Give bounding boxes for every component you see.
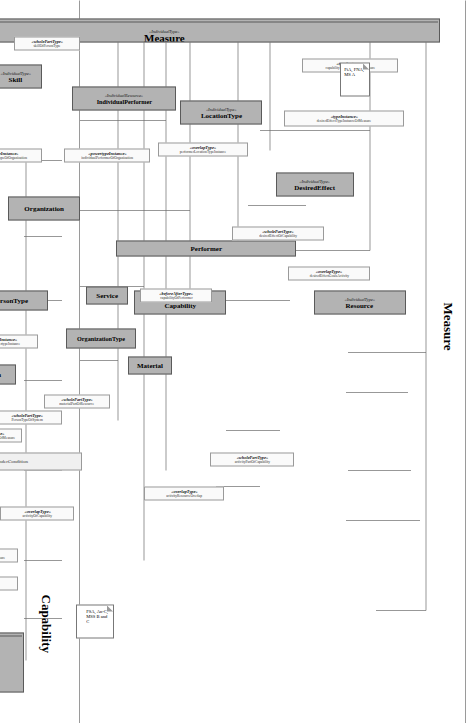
connector-name: capabilityOfPerformer [160, 295, 193, 299]
class-person-type-name: PersonType [0, 296, 28, 304]
connector-condition-type-instance[interactable]: «typeInstance» conditionTypeInstanceOfMe… [0, 428, 22, 442]
connector-name: individualPerformerOfOrganization [81, 155, 133, 159]
connector-name: desiredEffectGoalsActivity [309, 273, 348, 277]
note-fsa-anc-mss-b-c: FSA, An-C, MSS B and C [76, 604, 114, 638]
connector-resource-type-instance[interactable]: «typeInstance» resourceTypeInstanceOfMea… [0, 548, 18, 562]
connector-individual-performer-of-organization[interactable]: «powertypeInstance» individualPerformerO… [64, 148, 150, 162]
class-person-type[interactable]: PersonType [0, 290, 48, 310]
connector-name: skillOfPersonType [34, 43, 61, 47]
connector-name: conditionTypeInstanceOfMeasure [0, 435, 15, 439]
class-resource[interactable]: «IndividualType» Resource [314, 290, 406, 314]
connector-activity-part-of-capability[interactable]: «wholePartType» activityPartOfCapability [210, 452, 294, 466]
connector-name: resourceTypeInstanceOfMeasure [0, 555, 5, 559]
connector-name: PersonTypeOfSystem [11, 417, 42, 421]
class-location-type-stereotype: «IndividualType» [206, 106, 236, 111]
class-individual-performer-stereotype: «IndividualResource» [105, 92, 143, 97]
class-activity-header: «IndividualType» Activity [0, 635, 22, 661]
class-material[interactable]: Material [128, 356, 172, 374]
connector-name: activityPerformableUnderCondition [0, 459, 28, 463]
class-desired-effect[interactable]: «IndividualType» DesiredEffect [276, 172, 354, 196]
class-material-name: Material [137, 361, 163, 369]
class-skill-stereotype: «IndividualType» [1, 70, 31, 75]
class-measure-name: Measure [144, 33, 185, 41]
class-system-name: System [0, 370, 1, 378]
class-performer[interactable]: Performer [116, 240, 296, 256]
class-organization-name: Organization [24, 204, 64, 212]
connector-name: desiredEffectOfCapability [259, 233, 297, 237]
class-skill[interactable]: «IndividualType» Skill [0, 64, 42, 88]
note-fia-fna-ms-a: FiA, FNA, MS A [340, 62, 370, 96]
class-location-type-name: LocationType [200, 111, 241, 119]
connector-desired-effect-of-capability[interactable]: «wholePartType» desiredEffectOfCapabilit… [232, 226, 324, 240]
class-desired-effect-name: DesiredEffect [295, 183, 336, 191]
connector-activity-resource-overlap[interactable]: «overlapType» activityResourceOverlap [144, 486, 224, 500]
class-performer-name: Performer [190, 244, 221, 252]
connector-organization-powertype[interactable]: «powertypeInstance» organizationPowertyp… [0, 148, 42, 162]
connector-name: personTypePowertypeInstance [0, 341, 20, 345]
class-activity[interactable]: «IndividualType» Activity [0, 632, 24, 692]
class-desired-effect-stereotype: «IndividualType» [300, 178, 330, 183]
connector-name: performerLocationTypeInstance [180, 149, 226, 153]
class-organization-type-name: OrganizationType [77, 334, 125, 342]
connector-capability-of-performer[interactable]: «beforeAfterType» capabilityOfPerformer [140, 288, 212, 302]
note-b-text: FSA, An-C, MSS B and C [86, 608, 108, 624]
connector-name: organizationPowertypeOfOrganization [0, 155, 27, 159]
class-service[interactable]: Service [86, 286, 128, 304]
class-skill-name: Skill [9, 75, 23, 83]
connector-name: activityPartOfCapability [234, 459, 269, 463]
note-a-text: FiA, FNA, MS A [344, 66, 364, 77]
class-service-name: Service [96, 291, 118, 299]
connector-skill-of-person-type[interactable]: «wholePartType» skillOfPersonType [14, 36, 80, 50]
connector-name: activityOfCapability [22, 513, 52, 517]
class-resource-name: Resource [346, 301, 373, 309]
connector-activity-of-capability[interactable]: «overlapType» activityOfCapability [0, 506, 74, 520]
connector-name: materialPartOfResource [60, 401, 95, 405]
connector-performer-location-type-instance[interactable]: «overlapType» performerLocationTypeInsta… [158, 142, 248, 156]
class-individual-performer-name: IndividualPerformer [96, 97, 151, 105]
class-resource-stereotype: «IndividualType» [345, 296, 375, 301]
class-organization[interactable]: Organization [8, 196, 80, 220]
class-organization-type[interactable]: OrganizationType [66, 328, 136, 348]
connector-person-type-powertype[interactable]: «powertypeInstance» personTypePowertypeI… [0, 334, 38, 348]
connector-desired-effect-goals-activity[interactable]: «overlapType» desiredEffectGoalsActivity [288, 266, 370, 280]
connector-person-type-of-system[interactable]: «wholePartType» PersonTypeOfSystem [0, 410, 62, 424]
class-individual-performer[interactable]: «IndividualResource» IndividualPerformer [72, 86, 176, 110]
connector-activity-performable-under-condition[interactable]: activityPerformableUnderCondition [0, 452, 82, 470]
connector-activity-change-resource[interactable]: «beforeAfterType» activityChangesResourc… [0, 576, 18, 590]
connector-name: activityResourceOverlap [166, 493, 202, 497]
connector-name: desiredEffectTypeInstanceOfMeasure [317, 118, 371, 122]
connector-material-part-of-resource[interactable]: «wholePartType» materialPartOfResource [44, 394, 110, 408]
diagram-canvas: Measure Capability [0, 0, 466, 723]
connector-desired-effect-type-instance-of-measure[interactable]: «typeInstance» desiredEffectTypeInstance… [284, 110, 404, 126]
class-location-type[interactable]: «IndividualType» LocationType [180, 100, 262, 124]
class-system[interactable]: System [0, 364, 16, 384]
